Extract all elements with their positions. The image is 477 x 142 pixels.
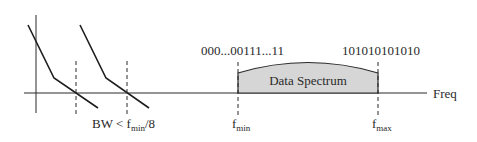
bandwidth-label: BW < fmin/8 [92, 116, 155, 133]
fmin-label: fmin [232, 116, 251, 133]
low-frequency-pattern: 000...00111...11 [201, 43, 284, 58]
filter-response-1 [28, 25, 98, 108]
filter-response-2 [80, 25, 149, 108]
fmax-label: fmax [372, 116, 392, 133]
fmin-sub: min [236, 123, 251, 133]
fmax-sub: max [376, 123, 392, 133]
spectrum-label: Data Spectrum [269, 73, 347, 88]
spectrum-diagram: Data Spectrum Freq 000...00111...11 1010… [0, 0, 477, 142]
bw-tail: /8 [145, 116, 155, 131]
high-frequency-pattern: 101010101010 [342, 43, 420, 58]
axis-label: Freq [433, 86, 457, 101]
bw-sub: min [131, 123, 146, 133]
bw-main: BW < f [92, 116, 132, 131]
